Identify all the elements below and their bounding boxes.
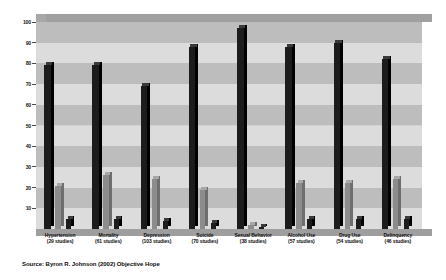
y-axis-tick-label: 60 (26, 102, 36, 108)
bar-2 (103, 175, 109, 229)
bar-top (383, 56, 390, 59)
chart-top-wall (36, 14, 432, 22)
bar-3 (259, 227, 264, 229)
bar-side (99, 62, 102, 226)
bar-top (346, 180, 352, 183)
bar-face (259, 227, 264, 229)
category-study-count: (70 studies) (181, 238, 229, 244)
bar-1 (189, 47, 196, 229)
bar-top (105, 172, 111, 175)
category-study-count: (103 studies) (133, 238, 181, 244)
bar-top (261, 224, 266, 227)
bar-group (84, 22, 132, 229)
bar-top (287, 44, 294, 47)
bar-3 (307, 219, 312, 229)
bar-1 (92, 65, 99, 229)
y-axis-tick-40: 40 (0, 142, 36, 150)
bar-2 (200, 190, 206, 229)
y-axis-tick-label: 30 (26, 164, 36, 170)
y-axis-tick-label: 90 (26, 40, 36, 46)
bar-1 (334, 43, 341, 229)
bar-top (405, 216, 410, 219)
category-study-count: (29 studies) (36, 238, 84, 244)
y-axis-tick-50: 50 (0, 122, 36, 130)
bar-1 (382, 59, 389, 229)
y-axis-tick-20: 20 (0, 184, 36, 192)
bar-2 (152, 179, 158, 229)
bar-2 (55, 186, 61, 229)
y-axis-tick-label: 80 (26, 60, 36, 66)
y-axis-tick-label: 40 (26, 143, 36, 149)
bar-top (357, 216, 362, 219)
bar-side (244, 25, 247, 226)
category-study-count: (57 studies) (277, 238, 325, 244)
bar-group (277, 22, 325, 229)
bar-top (212, 220, 217, 223)
bar-1 (285, 47, 292, 229)
bar-top (250, 222, 256, 225)
bar-top (142, 83, 149, 86)
bar-side (350, 180, 353, 226)
category-label-mortality: Mortality(61 studies) (84, 232, 132, 245)
y-axis-tick-90: 90 (0, 39, 36, 47)
y-axis-tick-label: 20 (26, 185, 36, 191)
category-label-depression: Depression(103 studies) (133, 232, 181, 245)
bar-side (109, 172, 112, 226)
bar-2 (345, 183, 351, 229)
category-label-suicide: Suicide(70 studies) (181, 232, 229, 245)
bar-1 (237, 28, 244, 229)
bar-top (57, 183, 63, 186)
bar-1 (141, 86, 148, 229)
bar-top (239, 25, 246, 28)
y-axis-tick-label: 50 (26, 123, 36, 129)
category-label-delinquency: Delinquency(46 studies) (374, 232, 422, 245)
bar-chart-figure: 100908070605040302010 Hypertension(29 st… (0, 0, 446, 280)
y-axis-tick-label: 100 (23, 19, 36, 25)
bar-top (116, 216, 121, 219)
y-axis-tick-100: 100 (0, 18, 36, 26)
y-axis-tick-30: 30 (0, 163, 36, 171)
y-axis-tick-10: 10 (0, 204, 36, 212)
category-label-hypertension: Hypertension(29 studies) (36, 232, 84, 245)
bar-side (195, 44, 198, 226)
bar-group (326, 22, 374, 229)
bar-top (46, 62, 53, 65)
bar-2 (393, 179, 399, 229)
bar-top (309, 216, 314, 219)
y-axis-tick-80: 80 (0, 59, 36, 67)
category-study-count: (46 studies) (374, 238, 422, 244)
bar-side (302, 180, 305, 226)
category-study-count: (54 studies) (326, 238, 374, 244)
category-study-count: (38 studies) (229, 238, 277, 244)
y-axis-tick-60: 60 (0, 101, 36, 109)
bar-side (61, 183, 64, 226)
bar-groups (36, 22, 422, 229)
bar-group (133, 22, 181, 229)
bar-3 (404, 219, 409, 229)
bar-side (147, 83, 150, 226)
x-axis-category-labels: Hypertension(29 studies)Mortality(61 stu… (36, 232, 432, 262)
bar-top (201, 187, 207, 190)
bar-3 (356, 219, 361, 229)
bar-group (36, 22, 84, 229)
bar-top (94, 62, 101, 65)
bar-side (205, 187, 208, 226)
bar-top (68, 216, 73, 219)
bar-2 (296, 183, 302, 229)
bar-1 (44, 65, 51, 229)
category-label-drug-use: Drug Use(54 studies) (326, 232, 374, 245)
y-axis-tick-label: 10 (26, 205, 36, 211)
y-axis-tick-label: 70 (26, 81, 36, 87)
category-label-sexual-behavior: Sexual Behavior(38 studies) (229, 232, 277, 245)
plot-area-wrapper (36, 14, 432, 229)
bar-group (229, 22, 277, 229)
bar-side (388, 56, 391, 226)
bar-group (374, 22, 422, 229)
y-axis: 100908070605040302010 (0, 14, 36, 236)
bar-side (340, 40, 343, 226)
bar-2 (248, 225, 254, 229)
source-note: Source: Byron R. Johnson (2002) Objectiv… (22, 261, 160, 267)
bar-3 (163, 221, 168, 229)
bar-group (181, 22, 229, 229)
bar-top (190, 44, 197, 47)
